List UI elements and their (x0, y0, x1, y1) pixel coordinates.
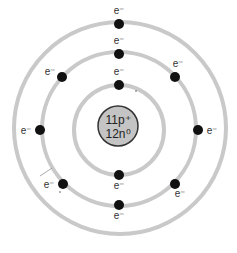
electron-label: e⁻ (114, 180, 125, 191)
electron-middle-right (193, 125, 203, 135)
electron-label: e⁻ (114, 5, 125, 16)
electron-middle-bottom-left (58, 179, 68, 189)
electron-middle-bottom (114, 200, 124, 210)
atom-diagram: 11p⁺ 12n⁰ e⁻ e⁻ e⁻ e⁻ e⁻ e⁻ e⁻ e⁻ e⁻ e⁻ … (0, 0, 237, 253)
electron-middle-top (114, 49, 124, 59)
nucleus-protons: 11p⁺ (105, 113, 130, 127)
electron-middle-top-right (170, 72, 180, 82)
electron-label: e⁻ (44, 179, 55, 190)
electron-label: e⁻ (207, 125, 218, 136)
electron-label: e⁻ (21, 125, 32, 136)
electron-middle-left (35, 125, 45, 135)
electron-outer-top (114, 19, 124, 29)
stray-dot (59, 191, 61, 193)
stray-dot (135, 90, 137, 92)
electron-label: e⁻ (45, 66, 56, 77)
electron-label: e⁻ (175, 188, 186, 199)
electron-inner-bottom (114, 170, 124, 180)
electron-label: e⁻ (114, 210, 125, 221)
electron-label: e⁻ (173, 58, 184, 69)
stray-mark (40, 168, 52, 176)
electron-inner-top (114, 80, 124, 90)
nucleus-neutrons: 12n⁰ (105, 127, 130, 141)
electron-middle-top-left (57, 72, 67, 82)
electron-label: e⁻ (114, 66, 125, 77)
electron-label: e⁻ (114, 35, 125, 46)
